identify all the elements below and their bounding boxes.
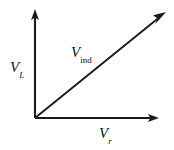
vector-vind [35, 12, 166, 118]
vector-vind-shaft [35, 18, 159, 118]
vector-vl [31, 9, 39, 118]
phasor-diagram-figure: VL Vind Vr [0, 0, 174, 150]
vector-canvas [0, 0, 174, 150]
vector-vind-arrowhead [153, 12, 166, 24]
label-vr-subscript: r [108, 136, 112, 146]
label-vl-symbol: V [10, 59, 19, 75]
label-vl-subscript: L [19, 70, 24, 80]
label-vr: Vr [99, 125, 112, 144]
label-vind: Vind [71, 44, 92, 63]
label-vind-symbol: V [71, 44, 80, 60]
label-vl: VL [10, 59, 24, 78]
label-vind-subscript: ind [80, 55, 92, 65]
label-vr-symbol: V [99, 125, 108, 141]
vector-vr [35, 114, 159, 122]
